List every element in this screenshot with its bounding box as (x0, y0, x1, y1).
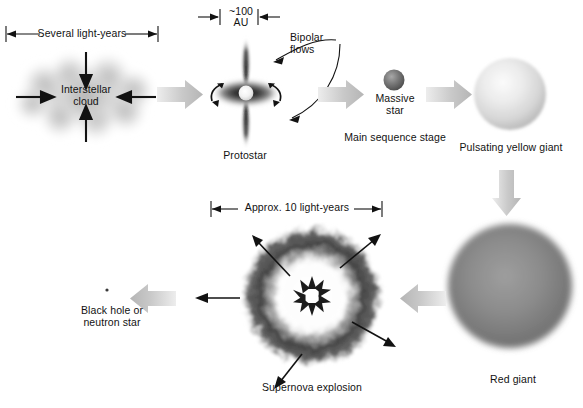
pulsating-yellow-giant-graphic (463, 50, 557, 144)
dimension-label-approx-10-light-years: Approx. 10 light-years (228, 202, 366, 214)
dimension-label-several-light-years: Several light-years (32, 28, 132, 40)
stage-label-black-hole-or-neutron-star: Black hole or neutron star (60, 305, 164, 328)
stage-label-supernova-explosion: Supernova explosion (232, 382, 392, 394)
arrow-right-icon-2 (316, 79, 368, 111)
stage-label-interstellar-cloud: Interstellar cloud (38, 84, 134, 107)
supernova-explosion-graphic (222, 218, 402, 383)
stage-label-pulsating-yellow-giant: Pulsating yellow giant (449, 142, 573, 154)
remnant-point-icon (100, 283, 114, 297)
red-giant-graphic (437, 218, 583, 368)
arrow-down-icon (489, 168, 525, 220)
caption-main-sequence-stage: Main sequence stage (330, 132, 460, 144)
stellar-evolution-diagram: Several light-years (0, 0, 583, 408)
stage-label-red-giant: Red giant (478, 374, 548, 386)
stage-label-protostar: Protostar (205, 150, 285, 162)
arrow-left-icon-1 (398, 283, 450, 315)
dimension-label-100-au: ~100 AU (213, 6, 269, 28)
stage-label-massive-star: Massive star (362, 93, 428, 116)
callout-label-bipolar-flows: Bipolar flows (290, 32, 350, 55)
